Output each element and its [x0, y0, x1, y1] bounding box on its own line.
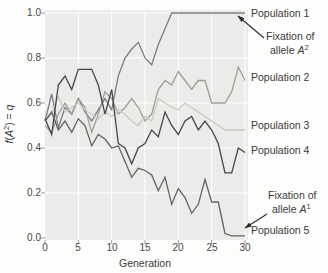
fixation-a1-line2: allele A1	[268, 203, 316, 217]
x-tick-25: 25	[200, 242, 224, 254]
ylabel-q: q	[3, 105, 15, 111]
y-tick-0.2: 0.2	[14, 187, 41, 199]
fixation-a2-annotation: Fixation of allele A2	[266, 30, 314, 57]
ylabel-pre: (	[3, 137, 15, 141]
y-tick-0.4: 0.4	[14, 142, 41, 154]
genetic-drift-figure: 1.0 0.8 0.6 0.4 0.2 0.0 0 5 10 15 20 25 …	[0, 0, 328, 273]
plot-area	[41, 10, 248, 244]
population-1-label: Population 1	[251, 7, 309, 19]
population-2-label: Population 2	[251, 71, 309, 83]
y-axis-title: f(A2) = q	[3, 64, 17, 184]
x-tick-10: 10	[100, 242, 124, 254]
fixation-a2-line2: allele A2	[266, 44, 314, 58]
x-tick-30: 30	[233, 242, 257, 254]
population-4-label: Population 4	[251, 144, 309, 156]
ylabel-post: ) =	[3, 110, 15, 125]
y-tick-0.8: 0.8	[14, 52, 41, 64]
ylabel-A: A	[3, 130, 15, 137]
population-3-label: Population 3	[251, 119, 309, 131]
y-tick-1.0: 1.0	[14, 7, 41, 19]
ylabel-sup: 2	[2, 126, 11, 130]
fixation-a1-annotation: Fixation of allele A1	[268, 189, 316, 216]
fixation-a2-line1: Fixation of	[266, 30, 314, 42]
y-tick-0.6: 0.6	[14, 97, 41, 109]
x-tick-0: 0	[33, 242, 57, 254]
x-tick-5: 5	[66, 242, 90, 254]
population-5-label: Population 5	[251, 224, 309, 236]
x-axis-title: Generation	[45, 257, 245, 269]
x-tick-15: 15	[133, 242, 157, 254]
x-tick-20: 20	[166, 242, 190, 254]
fixation-a1-line1: Fixation of	[268, 189, 316, 201]
